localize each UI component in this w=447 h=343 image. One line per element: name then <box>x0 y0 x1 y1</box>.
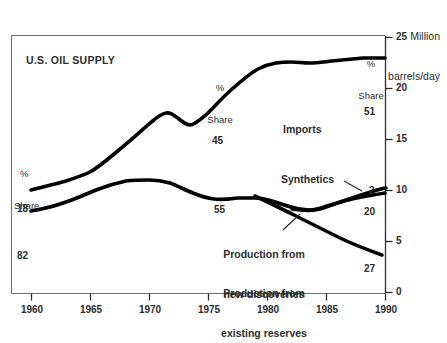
y-tick-5: 5 <box>396 235 402 246</box>
share-middle-header-word: Share <box>198 115 242 126</box>
share-middle-bottom-value: 55 <box>214 204 225 215</box>
y-tick-10: 10 <box>396 184 407 195</box>
share-middle-top-value: 45 <box>212 135 223 146</box>
x-tick-1960: 1960 <box>16 304 48 315</box>
share-right-existing-reserves-value: 27 <box>364 263 375 274</box>
x-tick-1965: 1965 <box>75 304 107 315</box>
x-tick-1990: 1990 <box>370 304 402 315</box>
synthetics-leader-line <box>344 181 362 191</box>
share-left-bottom-value: 82 <box>17 250 28 261</box>
chart-title: U.S. OIL SUPPLY <box>26 55 115 67</box>
series-label-existing-reserves: Production from existing reserves <box>201 261 327 343</box>
y-tick-20: 20 <box>396 82 407 93</box>
y-tick-25: 25 <box>396 31 407 42</box>
series-label-imports: Imports <box>283 124 322 136</box>
existing-reserves-line2: existing reserves <box>201 327 327 340</box>
share-left-top-value: 18 <box>17 203 28 214</box>
existing-reserves-line1: Production from <box>201 287 327 300</box>
new-discoveries-line1: Production from <box>201 248 327 261</box>
y-tick-0: 0 <box>396 286 402 297</box>
share-right-header-word: Share <box>352 91 390 102</box>
x-tick-1970: 1970 <box>134 304 166 315</box>
y-tick-15: 15 <box>396 133 407 144</box>
share-left-header: % Share <box>14 148 58 233</box>
share-right-header-pct: % <box>352 59 390 70</box>
share-left-header-pct: % <box>14 169 58 180</box>
series-label-synthetics: Synthetics <box>281 174 334 186</box>
share-right-new-discoveries-value: 20 <box>364 206 375 217</box>
share-middle-header-pct: % <box>198 83 242 94</box>
share-right-imports-value: 51 <box>364 106 375 117</box>
share-right-synthetics-value: 2 <box>369 185 375 196</box>
